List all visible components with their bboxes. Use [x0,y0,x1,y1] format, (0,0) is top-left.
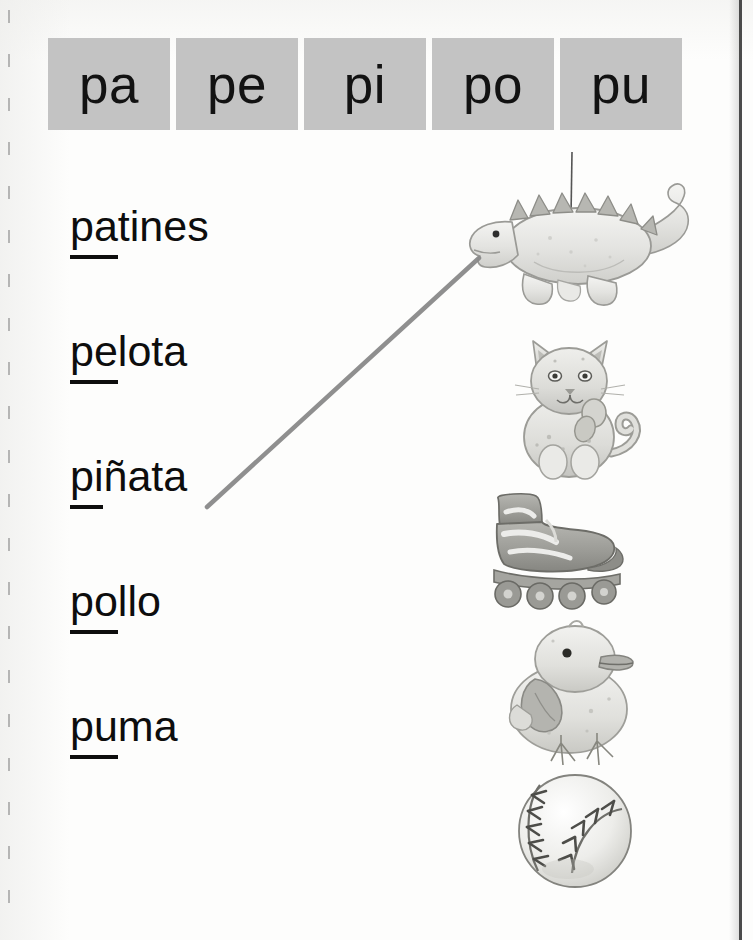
word-text: patines [70,205,390,248]
syllable-label: pa [79,58,139,111]
page-edge-shadow [729,0,739,940]
illustration-slot-skate[interactable] [430,490,720,615]
word-item-patines[interactable]: patines [70,205,390,330]
illustration-slot-baseball[interactable] [430,765,720,895]
syllable-header-row: pa pe pi po pu [48,38,682,130]
pinata-dinosaur-image [438,150,713,325]
word-syllable-patines: pa [70,202,118,259]
syllable-box-pe[interactable]: pe [176,38,298,130]
syllable-box-pu[interactable]: pu [560,38,682,130]
syllable-box-pi[interactable]: pi [304,38,426,130]
syllable-label: pu [591,58,651,111]
word-item-puma[interactable]: puma [70,705,390,830]
baseball-image [510,765,640,895]
word-text: pelota [70,330,390,373]
syllable-box-po[interactable]: po [432,38,554,130]
word-item-pelota[interactable]: pelota [70,330,390,455]
chick-image [483,615,668,765]
illustration-column [430,150,720,895]
word-syllable-pinata: pi [70,452,103,509]
word-text: puma [70,705,390,748]
word-text: piñata [70,455,390,498]
word-syllable-pelota: pe [70,327,118,384]
page-perforation-marks [8,10,10,930]
word-remainder-pelota: lota [118,327,187,375]
illustration-slot-pinata[interactable] [430,150,720,325]
word-remainder-puma: ma [118,702,178,750]
word-remainder-patines: tines [118,202,209,250]
illustration-slot-kitten[interactable] [430,325,720,490]
syllable-label: pe [207,58,267,111]
roller-skate-image [470,490,680,615]
word-item-pinata[interactable]: piñata [70,455,390,580]
word-remainder-pinata: ñata [103,452,187,500]
illustration-slot-chick[interactable] [430,615,720,765]
word-item-pollo[interactable]: pollo [70,580,390,705]
word-remainder-pollo: llo [118,577,161,625]
kitten-cub-image [493,325,658,490]
worksheet-page: pa pe pi po pu patines pelota piñata pol… [0,0,753,940]
page-edge-border [739,0,742,940]
word-text: pollo [70,580,390,623]
word-syllable-puma: pu [70,702,118,759]
syllable-label: po [463,58,523,111]
word-list: patines pelota piñata pollo puma [70,205,390,830]
syllable-box-pa[interactable]: pa [48,38,170,130]
word-syllable-pollo: po [70,577,118,634]
syllable-label: pi [344,58,386,111]
